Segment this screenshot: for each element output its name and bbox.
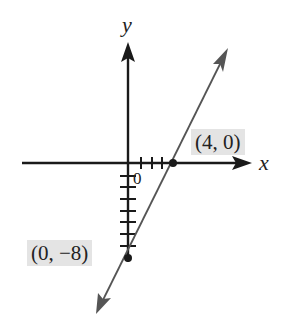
origin-label: 0 (133, 169, 142, 189)
x-axis-label: x (259, 150, 269, 176)
coordinate-plane (0, 0, 287, 330)
y-axis (121, 42, 135, 262)
y-axis-label: y (122, 12, 132, 38)
x-axis (22, 156, 252, 170)
line-arrow-up-icon (213, 48, 228, 72)
point-label-y-intercept: (0, −8) (27, 240, 92, 266)
point-y-intercept (124, 254, 132, 262)
point-x-intercept (169, 159, 177, 167)
point-label-x-intercept: (4, 0) (191, 129, 245, 155)
line-arrow-down-icon (96, 293, 111, 314)
graphed-line (96, 48, 228, 314)
